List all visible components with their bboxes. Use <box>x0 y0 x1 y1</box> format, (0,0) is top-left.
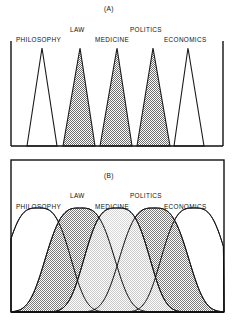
panel-b: (B) PHILOSOPHY LAW MEDICINE POLITICS ECO… <box>0 158 234 324</box>
panel-a-plot <box>0 0 234 158</box>
panel-b-plot <box>0 158 234 324</box>
panel-a-triangle-politics <box>137 48 170 146</box>
figure-container: (A) PHILOSOPHY LAW MEDICINE POLITICS ECO… <box>0 0 234 324</box>
panel-a-triangle-philosophy <box>27 48 57 146</box>
panel-a-triangle-medicine <box>100 48 132 146</box>
panel-a-triangle-economics <box>174 48 204 146</box>
panel-a: (A) PHILOSOPHY LAW MEDICINE POLITICS ECO… <box>0 0 234 158</box>
panel-a-triangle-law <box>63 48 95 146</box>
